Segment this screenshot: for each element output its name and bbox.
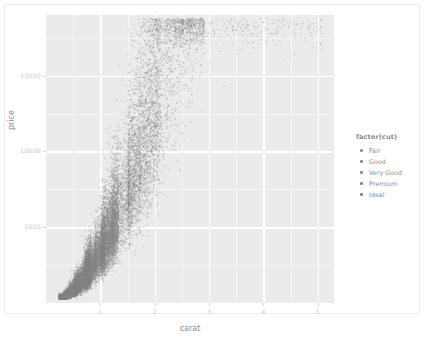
y-tick-mark: [43, 151, 46, 152]
y-tick-mark: [43, 227, 46, 228]
legend-item: Good: [356, 156, 420, 167]
x-tick-label: 5: [308, 308, 328, 316]
legend-item-label: Good: [367, 158, 386, 166]
x-axis-title: carat: [46, 324, 334, 333]
legend-item-label: Fair: [367, 147, 380, 155]
y-tick-label: 15000: [20, 72, 41, 80]
x-tick-label: 4: [253, 308, 273, 316]
legend-key-dot-icon: [356, 167, 367, 178]
x-tick-mark: [318, 303, 319, 306]
x-tick-mark: [209, 303, 210, 306]
legend-item: Ideal: [356, 189, 420, 200]
x-tick-mark: [263, 303, 264, 306]
legend-item: Very Good: [356, 167, 420, 178]
scatter-points-layer: [46, 15, 334, 303]
legend: factor(cut) FairGoodVery GoodPremiumIdea…: [356, 133, 420, 200]
x-tick-mark: [100, 303, 101, 306]
legend-item-label: Premium: [367, 180, 397, 188]
legend-items: FairGoodVery GoodPremiumIdeal: [356, 145, 420, 200]
y-tick-label: 5000: [24, 223, 41, 231]
x-tick-mark: [155, 303, 156, 306]
x-tick-label: 2: [145, 308, 165, 316]
legend-key-dot-icon: [356, 178, 367, 189]
x-tick-label: 1: [90, 308, 110, 316]
y-tick-mark: [43, 76, 46, 77]
plot-panel: [46, 15, 334, 303]
plot-root: 50001000015000 12345 carat price factor(…: [0, 0, 426, 349]
legend-title: factor(cut): [356, 133, 420, 141]
legend-key-dot-icon: [356, 156, 367, 167]
legend-item: Premium: [356, 178, 420, 189]
legend-key-dot-icon: [356, 189, 367, 200]
y-tick-label: 10000: [20, 147, 41, 155]
legend-item: Fair: [356, 145, 420, 156]
legend-item-label: Very Good: [367, 169, 402, 177]
legend-key-dot-icon: [356, 145, 367, 156]
x-tick-label: 3: [199, 308, 219, 316]
legend-item-label: Ideal: [367, 191, 385, 199]
y-axis-title: price: [7, 110, 16, 130]
